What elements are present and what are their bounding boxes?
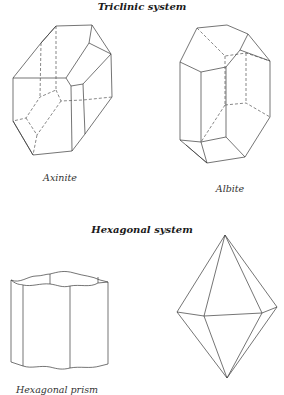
axinite-label: Axinite <box>30 172 90 183</box>
albite-crystal <box>180 25 270 163</box>
hexagonal-bipyramid <box>177 235 277 378</box>
hexagonal-prism-label: Hexagonal prism <box>2 384 112 395</box>
hexagonal-prism <box>11 271 108 369</box>
axinite-crystal <box>13 25 112 155</box>
albite-label: Albite <box>200 183 260 194</box>
